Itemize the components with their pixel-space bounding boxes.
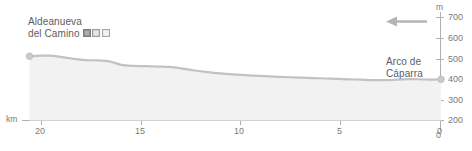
end-place-label[interactable]: Arco de Cáparra	[386, 56, 423, 79]
start-place-label[interactable]: Aldeanueva del Camino	[28, 16, 110, 39]
y-tick-label-600: 600	[448, 33, 463, 43]
elevation-area-fill	[30, 56, 441, 121]
place-badge-icons	[83, 29, 110, 37]
badge-icon-3[interactable]	[102, 29, 110, 37]
elevation-profile-chart: m 700 600 500 400 300 200 0 km 20 15 10 …	[0, 0, 472, 151]
badge-icon-2-glyph	[94, 31, 98, 35]
x-tick-label-15: 15	[135, 126, 145, 136]
badge-icon-1-glyph	[85, 31, 89, 35]
y-tick-label-200: 200	[448, 115, 463, 125]
x-tick-label-5: 5	[337, 126, 342, 136]
start-place-line-1: Aldeanueva	[28, 16, 110, 28]
y-tick-label-400: 400	[448, 74, 463, 84]
x-tick-label-10: 10	[234, 126, 244, 136]
y-tick-label-300: 300	[448, 95, 463, 105]
start-place-line-2-wrap: del Camino	[28, 28, 110, 40]
end-place-line-2: Cáparra	[386, 68, 423, 80]
x-axis-unit-label: km	[6, 114, 17, 124]
y-axis-unit-label: m	[436, 2, 443, 12]
x-tick-label-20: 20	[35, 126, 45, 136]
end-place-line-1: Arco de	[386, 56, 423, 68]
end-point-marker[interactable]	[438, 76, 444, 82]
x-tick-label-0: 0	[437, 126, 442, 136]
start-place-line-2: del Camino	[28, 28, 80, 40]
badge-icon-1[interactable]	[83, 29, 91, 37]
y-tick-label-500: 500	[448, 54, 463, 64]
y-tick-label-700: 700	[448, 12, 463, 22]
badge-icon-3-glyph	[104, 31, 108, 35]
start-point-marker[interactable]	[26, 53, 32, 59]
badge-icon-2[interactable]	[92, 29, 100, 37]
direction-arrow-icon	[386, 17, 427, 27]
